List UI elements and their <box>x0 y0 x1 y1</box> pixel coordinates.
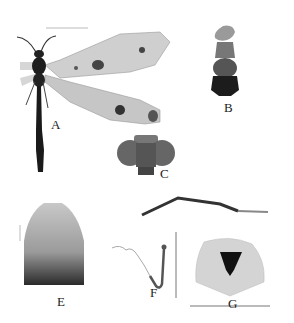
panel-label-f: F <box>150 286 157 299</box>
panel-d-specimen <box>140 190 280 220</box>
panel-f-specimen <box>112 228 184 304</box>
panel-label-e: E <box>57 295 65 308</box>
panel-b-specimen <box>205 24 245 100</box>
panel-e-specimen <box>16 201 90 291</box>
panel-label-g: G <box>228 297 237 310</box>
panel-label-c: C <box>160 167 169 180</box>
panel-label-a: A <box>51 118 60 131</box>
panel-label-b: B <box>224 101 233 114</box>
